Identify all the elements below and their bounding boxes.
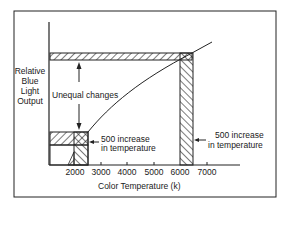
x-axis-label: Color Temperature (k) [98, 181, 181, 191]
arrow-left-icon-2 [194, 138, 199, 142]
upper-output-band [50, 53, 192, 60]
annotation-right-line-1: 500 increase [215, 130, 264, 140]
unequal-changes-label: Unequal changes [52, 90, 118, 100]
x-tick-4000: 4000 [118, 167, 137, 177]
x-tick-6000: 6000 [171, 167, 190, 177]
arrow-left-icon-1 [89, 140, 94, 144]
y-label-line-4: Output [12, 96, 48, 106]
arrow-down-icon [77, 123, 82, 130]
y-label-line-1: Relative [12, 66, 48, 76]
hatched-bar-6000-6500 [180, 53, 193, 165]
x-tick-7000: 7000 [198, 167, 217, 177]
y-axis-label: Relative Blue Light Output [12, 66, 48, 106]
annotation-right-line-2: in temperature [208, 140, 263, 150]
annotation-left-line-2: in temperature [101, 143, 156, 153]
y-label-line-2: Blue [12, 76, 48, 86]
hatched-bar-2000-2500 [74, 132, 88, 165]
lower-triangle-hatch [68, 152, 74, 165]
y-label-line-3: Light [12, 86, 48, 96]
x-tick-2000: 2000 [66, 167, 85, 177]
x-tick-5000: 5000 [145, 167, 164, 177]
arrow-up-icon [77, 62, 82, 69]
x-tick-3000: 3000 [92, 167, 111, 177]
